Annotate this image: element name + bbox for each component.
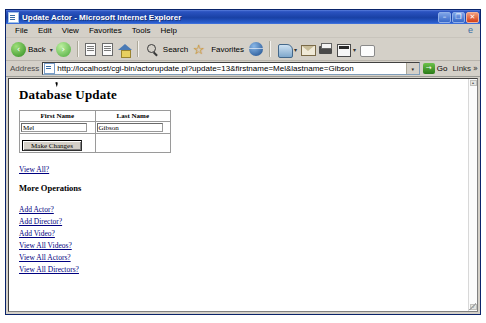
column-header-last-name: Last Name: [95, 111, 171, 122]
browser-window: Update Actor - Microsoft Internet Explor…: [5, 9, 481, 315]
edit-button[interactable]: ▾: [334, 39, 358, 59]
back-arrow-icon: ‹: [11, 42, 26, 57]
close-icon: ✕: [467, 13, 478, 22]
link-add-actor[interactable]: Add Actor?: [19, 205, 54, 214]
go-label: Go: [437, 64, 448, 73]
media-globe-icon: [249, 42, 263, 56]
favorites-icon-wrap: ☆: [193, 42, 209, 57]
make-changes-button[interactable]: Make Changes: [22, 140, 82, 151]
menu-item-file[interactable]: File: [10, 25, 33, 36]
menu-item-favorites[interactable]: Favorites: [84, 25, 127, 36]
forward-button[interactable]: ›: [54, 39, 73, 59]
search-button[interactable]: Search: [143, 39, 190, 59]
table-row: Mel Gibson: [20, 122, 171, 134]
menu-item-view[interactable]: View: [57, 25, 84, 36]
cell-empty: [95, 134, 171, 153]
list-item: View All Actors?: [19, 250, 468, 262]
history-button[interactable]: ▾: [275, 39, 299, 59]
link-view-all-directors[interactable]: View All Directors?: [19, 265, 79, 274]
cell-last-name: Gibson: [95, 122, 171, 134]
discuss-icon: [360, 45, 375, 57]
links-label: Links: [452, 64, 471, 73]
cell-first-name: Mel: [20, 122, 96, 134]
search-label: Search: [163, 45, 188, 54]
menu-item-edit[interactable]: Edit: [33, 25, 57, 36]
address-input-wrapper[interactable]: http://localhost/cgi-bin/actorupdate.pl?…: [42, 62, 419, 75]
list-item: Add Actor?: [19, 202, 468, 214]
document-viewport: Database Update First Name Last Name Mel…: [8, 78, 478, 312]
link-add-director[interactable]: Add Director?: [19, 217, 62, 226]
view-all-row: View All?: [19, 162, 468, 174]
maximize-button[interactable]: ❐: [452, 12, 465, 23]
mail-icon: [301, 45, 316, 56]
mail-button[interactable]: [300, 42, 316, 57]
resize-grip[interactable]: [469, 303, 476, 310]
window-controls: – ❐ ✕: [438, 12, 479, 23]
discuss-button[interactable]: [359, 42, 375, 57]
back-label: Back: [28, 45, 46, 54]
list-item: Add Video?: [19, 226, 468, 238]
print-button[interactable]: [317, 42, 333, 57]
edit-icon: [337, 44, 351, 57]
refresh-button[interactable]: [100, 42, 116, 57]
history-dropdown-icon[interactable]: ▾: [294, 46, 297, 53]
search-icon-wrap: [145, 42, 161, 57]
minimize-icon: –: [439, 13, 450, 22]
refresh-icon: [102, 43, 113, 56]
more-operations-heading: More Operations: [19, 183, 468, 193]
ie-logo-icon: e: [465, 25, 476, 36]
link-add-video[interactable]: Add Video?: [19, 229, 55, 238]
ie-document-icon: [8, 12, 19, 23]
page-favicon-icon: [44, 63, 55, 74]
table-action-row: Make Changes: [20, 134, 171, 153]
chevron-right-icon[interactable]: »: [473, 64, 478, 73]
go-icon: →: [423, 63, 435, 74]
stop-icon: [85, 43, 96, 56]
star-icon: ☆: [193, 42, 209, 57]
address-label: Address: [8, 64, 42, 73]
menu-item-help[interactable]: Help: [155, 25, 181, 36]
list-item: View All Directors?: [19, 262, 468, 274]
first-name-input[interactable]: Mel: [21, 123, 87, 132]
link-view-all[interactable]: View All?: [19, 165, 49, 174]
minimize-button[interactable]: –: [438, 12, 451, 23]
list-item: Add Director?: [19, 214, 468, 226]
page-title: Database Update: [19, 87, 468, 103]
title-bar[interactable]: Update Actor - Microsoft Internet Explor…: [6, 10, 480, 24]
toolbar-separator-3: [269, 41, 271, 57]
forward-arrow-icon: ›: [56, 42, 71, 57]
favorites-button[interactable]: ☆ Favorites: [191, 39, 246, 59]
edit-dropdown-icon[interactable]: ▾: [353, 46, 356, 53]
history-icon: [278, 44, 293, 58]
web-page: Database Update First Name Last Name Mel…: [9, 79, 468, 311]
toolbar-separator-2: [137, 41, 139, 57]
last-name-input[interactable]: Gibson: [97, 123, 163, 132]
home-button[interactable]: [117, 42, 133, 57]
actor-update-table: First Name Last Name Mel Gibson Make: [19, 110, 171, 153]
column-header-first-name: First Name: [20, 111, 96, 122]
address-dropdown-icon[interactable]: ▾: [406, 63, 419, 74]
favorites-label: Favorites: [211, 45, 244, 54]
media-button[interactable]: [247, 39, 265, 59]
history-icon-wrap: [277, 42, 293, 57]
menu-item-tools[interactable]: Tools: [127, 25, 156, 36]
links-toolbar[interactable]: Links »: [452, 64, 478, 73]
stop-button[interactable]: [83, 42, 99, 57]
vertical-scrollbar[interactable]: ▴ ▾: [468, 79, 477, 311]
list-item: View All Videos?: [19, 238, 468, 250]
search-icon: [147, 44, 156, 53]
edit-icon-wrap: [336, 42, 352, 57]
close-button[interactable]: ✕: [466, 12, 479, 23]
toolbar-separator-1: [77, 41, 79, 57]
cell-submit: Make Changes: [20, 134, 96, 153]
back-dropdown-icon[interactable]: ▾: [50, 46, 53, 53]
navigation-toolbar: ‹ Back ▾ › Search ☆ Favorites ▾: [6, 38, 480, 61]
go-button[interactable]: → Go: [423, 63, 448, 74]
home-icon: [118, 44, 132, 50]
link-view-all-actors[interactable]: View All Actors?: [19, 253, 71, 262]
print-icon: [319, 46, 332, 54]
address-input[interactable]: http://localhost/cgi-bin/actorupdate.pl?…: [57, 63, 405, 74]
link-view-all-videos[interactable]: View All Videos?: [19, 241, 72, 250]
scroll-up-icon[interactable]: ▴: [470, 80, 477, 86]
back-button[interactable]: ‹ Back: [9, 39, 48, 59]
